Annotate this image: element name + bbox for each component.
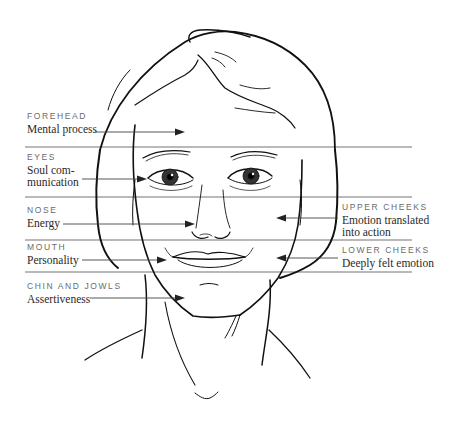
label-upper-cheeks: UPPER CHEEKS Emotion translated into act… <box>342 203 429 238</box>
text-lower-cheeks: Deeply felt emotion <box>342 257 434 269</box>
text-eyes-line2: munication <box>27 176 79 188</box>
label-eyes: EYES Soul com- munication <box>27 153 79 188</box>
caption-forehead: FOREHEAD <box>27 112 97 121</box>
caption-lower-cheeks: LOWER CHEEKS <box>342 246 434 255</box>
face-outline <box>133 125 302 336</box>
nose <box>192 185 230 238</box>
eyebrows <box>143 151 277 161</box>
text-upper-cheeks-line2: into action <box>342 226 429 238</box>
caption-eyes: EYES <box>27 153 79 162</box>
label-chin-jowls: CHIN AND JOWLS Assertiveness <box>27 282 122 305</box>
text-chin-jowls: Assertiveness <box>27 293 122 305</box>
caption-mouth: MOUTH <box>27 243 79 252</box>
caption-nose: NOSE <box>27 206 60 215</box>
label-lower-cheeks: LOWER CHEEKS Deeply felt emotion <box>342 246 434 269</box>
text-nose: Energy <box>27 217 60 229</box>
label-forehead: FOREHEAD Mental process <box>27 112 97 135</box>
mouth <box>165 248 253 285</box>
label-mouth: MOUTH Personality <box>27 243 79 266</box>
label-nose: NOSE Energy <box>27 206 60 229</box>
text-upper-cheeks-line1: Emotion translated <box>342 214 429 226</box>
face-zone-diagram: FOREHEAD Mental process EYES Soul com- m… <box>0 0 454 424</box>
text-eyes-line1: Soul com- <box>27 164 79 176</box>
pointer-arrows <box>63 129 338 302</box>
caption-chin-jowls: CHIN AND JOWLS <box>27 282 122 291</box>
right-eye <box>228 168 272 191</box>
caption-upper-cheeks: UPPER CHEEKS <box>342 203 429 212</box>
left-eye <box>148 169 193 191</box>
text-mouth: Personality <box>27 254 79 266</box>
text-forehead: Mental process <box>27 123 97 135</box>
